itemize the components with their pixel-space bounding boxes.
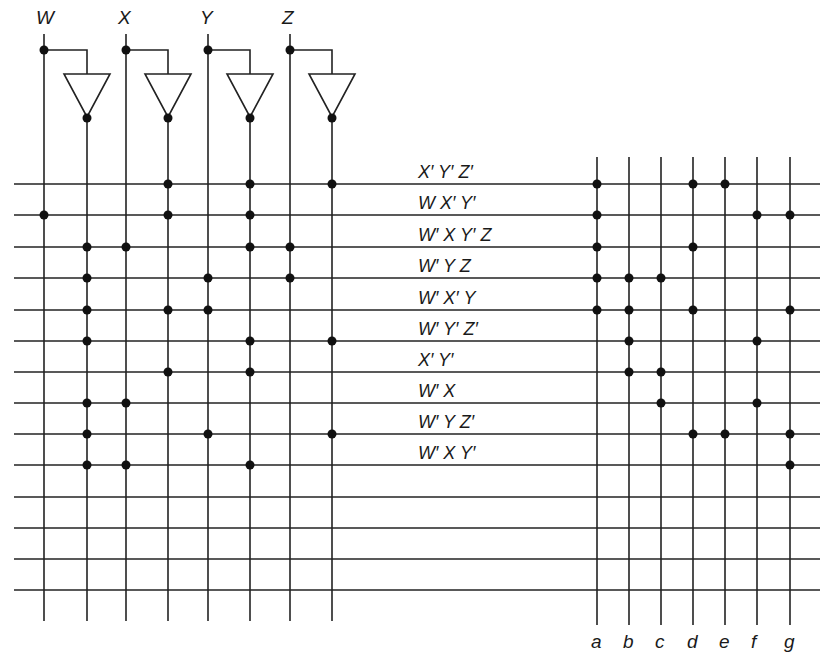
input-label-Y: Y	[200, 7, 214, 28]
or-connection-dot	[657, 399, 666, 408]
tap-dot	[286, 46, 295, 55]
input-label-X: X	[117, 7, 132, 28]
and-connection-dot	[83, 306, 92, 315]
or-connection-dot	[786, 306, 795, 315]
output-label-c: c	[655, 631, 665, 652]
product-term-label: W′ X	[418, 381, 456, 401]
or-connection-dot	[721, 430, 730, 439]
or-connection-dot	[786, 461, 795, 470]
tap-dot	[40, 46, 49, 55]
product-term-label: X′ Y′	[417, 350, 454, 370]
and-connection-dot	[164, 306, 173, 315]
or-connection-dot	[593, 180, 602, 189]
and-connection-dot	[122, 243, 131, 252]
pla-diagram: WXYZabcdefgX′ Y′ Z′W X′ Y′W′ X Y′ ZW′ Y …	[0, 0, 835, 657]
or-connection-dot	[689, 243, 698, 252]
and-connection-dot	[246, 243, 255, 252]
and-connection-dot	[246, 337, 255, 346]
and-connection-dot	[122, 399, 131, 408]
or-connection-dot	[786, 211, 795, 220]
inverter-bubble	[164, 114, 173, 123]
inverter-feed-Y	[208, 50, 250, 74]
input-lines	[44, 34, 355, 621]
product-term-label: W′ X Y′ Z	[418, 225, 492, 245]
or-connection-dot	[721, 180, 730, 189]
inverter-icon	[145, 74, 191, 117]
or-connection-dot	[689, 180, 698, 189]
and-connection-dot	[246, 461, 255, 470]
output-label-d: d	[687, 631, 699, 652]
connection-dots	[40, 46, 795, 470]
output-label-f: f	[751, 631, 758, 652]
tap-dot	[204, 46, 213, 55]
inverter-icon	[227, 74, 273, 117]
or-connection-dot	[657, 368, 666, 377]
input-label-Z: Z	[281, 7, 295, 28]
product-term-label: W′ Y Z′	[418, 412, 475, 432]
input-label-W: W	[36, 7, 56, 28]
product-term-label: W′ Y Z	[418, 256, 472, 276]
inverter-bubble	[83, 114, 92, 123]
output-label-b: b	[623, 631, 634, 652]
and-connection-dot	[83, 243, 92, 252]
labels: WXYZabcdefgX′ Y′ Z′W X′ Y′W′ X Y′ ZW′ Y …	[36, 7, 795, 652]
inverter-icon	[309, 74, 355, 117]
tap-dot	[122, 46, 131, 55]
and-connection-dot	[122, 461, 131, 470]
or-connection-dot	[625, 368, 634, 377]
and-connection-dot	[83, 430, 92, 439]
and-connection-dot	[246, 368, 255, 377]
or-connection-dot	[593, 274, 602, 283]
output-lines	[597, 157, 790, 625]
and-connection-dot	[83, 461, 92, 470]
or-connection-dot	[753, 337, 762, 346]
and-connection-dot	[204, 306, 213, 315]
product-term-label: W′ X Y′	[418, 443, 476, 463]
product-term-label: W′ X′ Y	[418, 288, 477, 308]
or-connection-dot	[593, 211, 602, 220]
or-connection-dot	[593, 243, 602, 252]
product-term-lines	[14, 184, 820, 590]
or-connection-dot	[657, 274, 666, 283]
and-connection-dot	[83, 337, 92, 346]
and-connection-dot	[328, 430, 337, 439]
and-connection-dot	[164, 211, 173, 220]
and-connection-dot	[204, 430, 213, 439]
or-connection-dot	[625, 337, 634, 346]
product-term-label: W X′ Y′	[418, 193, 476, 213]
or-connection-dot	[625, 274, 634, 283]
or-connection-dot	[689, 306, 698, 315]
product-term-label: W′ Y′ Z′	[418, 319, 478, 339]
or-connection-dot	[753, 211, 762, 220]
or-connection-dot	[689, 430, 698, 439]
inverter-bubble	[246, 114, 255, 123]
and-connection-dot	[83, 399, 92, 408]
and-connection-dot	[246, 180, 255, 189]
inverter-icon	[64, 74, 110, 117]
and-connection-dot	[164, 180, 173, 189]
or-connection-dot	[753, 399, 762, 408]
pla-schematic: WXYZabcdefgX′ Y′ Z′W X′ Y′W′ X Y′ ZW′ Y …	[0, 0, 835, 657]
output-label-a: a	[591, 631, 602, 652]
and-connection-dot	[83, 274, 92, 283]
inverter-feed-X	[126, 50, 168, 74]
inverter-feed-Z	[290, 50, 332, 74]
or-connection-dot	[625, 306, 634, 315]
and-connection-dot	[204, 274, 213, 283]
and-connection-dot	[40, 211, 49, 220]
and-connection-dot	[246, 211, 255, 220]
inverter-feed-W	[44, 50, 87, 74]
inverter-bubble	[328, 114, 337, 123]
and-connection-dot	[286, 243, 295, 252]
and-connection-dot	[328, 180, 337, 189]
or-connection-dot	[593, 306, 602, 315]
product-term-label: X′ Y′ Z′	[417, 162, 473, 182]
output-label-g: g	[784, 631, 795, 652]
or-connection-dot	[786, 430, 795, 439]
output-label-e: e	[719, 631, 730, 652]
and-connection-dot	[328, 337, 337, 346]
and-connection-dot	[164, 368, 173, 377]
and-connection-dot	[286, 274, 295, 283]
